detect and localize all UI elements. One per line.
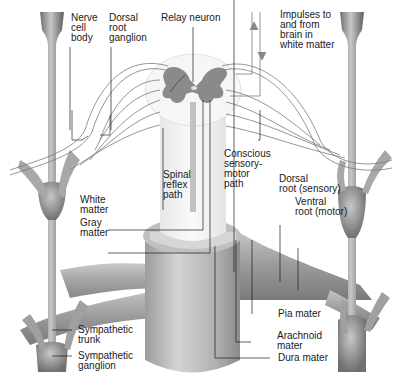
label-gray-matter: Gray matter	[80, 218, 108, 238]
label-arachnoid-mater: Arachnoid mater	[277, 331, 322, 351]
label-spinal-reflex-path: Spinal reflex path	[163, 170, 191, 200]
label-white-matter: White matter	[80, 195, 108, 215]
label-dorsal-root: Dorsal root (sensory)	[279, 174, 341, 194]
label-dura-mater: Dura mater	[278, 353, 328, 363]
label-sympathetic-trunk: Sympathetic trunk	[78, 325, 133, 345]
sympathetic-trunk-left	[18, 12, 88, 372]
nerve-fibers-left	[10, 63, 168, 175]
label-dorsal-root-ganglion: Dorsal root ganglion	[109, 13, 147, 43]
label-impulses-brain: Impulses to and from brain in white matt…	[280, 10, 334, 50]
label-sympathetic-ganglion: Sympathetic ganglion	[78, 351, 133, 371]
label-relay-neuron: Relay neuron	[161, 13, 220, 23]
label-pia-mater: Pia mater	[278, 309, 321, 319]
label-conscious-sensory-motor-path: Conscious sensory- motor path	[224, 149, 271, 189]
label-nerve-cell-body: Nerve cell body	[71, 13, 98, 43]
label-ventral-root: Ventral root (motor)	[295, 197, 347, 217]
